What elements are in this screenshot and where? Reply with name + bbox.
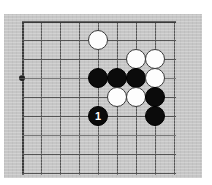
black-stone-row-c[interactable] [126, 68, 146, 88]
black-stone-move-1[interactable]: 1 [88, 106, 108, 126]
black-stone-right-a[interactable] [145, 87, 165, 107]
grid-line-horizontal-8 [22, 173, 176, 174]
grid-line-horizontal-0 [22, 21, 176, 23]
go-board[interactable]: 1 [4, 14, 202, 178]
white-stone-lower-b[interactable] [126, 87, 146, 107]
white-stone-upper-right-b[interactable] [145, 49, 165, 69]
grid-line-vertical-8 [174, 21, 175, 175]
white-stone-right-middle[interactable] [145, 68, 165, 88]
white-stone-upper-right-a[interactable] [126, 49, 146, 69]
black-stone-row-a[interactable] [88, 68, 108, 88]
white-stone-top[interactable] [88, 30, 108, 50]
black-stone-move-1-label: 1 [95, 111, 101, 122]
black-stone-right-b[interactable] [145, 106, 165, 126]
hoshi-4-4-icon [19, 75, 25, 81]
go-diagram-screenshot: 1 [0, 0, 212, 185]
black-stone-row-b[interactable] [107, 68, 127, 88]
grid-line-vertical-0 [22, 21, 24, 175]
grid-line-horizontal-6 [22, 135, 176, 136]
white-stone-lower-a[interactable] [107, 87, 127, 107]
grid-line-vertical-1 [41, 21, 42, 175]
grid-line-vertical-3 [79, 21, 80, 175]
grid-line-vertical-2 [60, 21, 61, 175]
grid-line-horizontal-7 [22, 154, 176, 155]
